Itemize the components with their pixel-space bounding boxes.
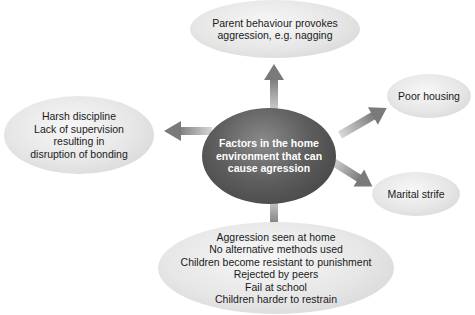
node-text-line: aggression, e.g. nagging <box>212 29 338 42</box>
node-marital-strife: Marital strife <box>372 172 460 216</box>
node-text-line: Children become resistant to punishment <box>181 256 372 269</box>
center-text-line: cause agression <box>216 162 322 175</box>
node-text-line: Marital strife <box>387 188 444 201</box>
node-text-line: disruption of bonding <box>30 148 128 161</box>
node-text-line: Rejected by peers <box>181 268 372 281</box>
center-text-line: Factors in the home <box>216 137 322 150</box>
center-text-line: environment that can <box>216 150 322 163</box>
node-text-line: Parent behaviour provokes <box>212 17 338 30</box>
diagram-canvas: Parent behaviour provokes aggression, e.… <box>0 0 475 315</box>
node-text-line: Fail at school <box>181 281 372 294</box>
node-text-line: Harsh discipline <box>30 110 128 123</box>
node-text-line: resulting in <box>30 135 128 148</box>
node-parent-behaviour: Parent behaviour provokes aggression, e.… <box>190 0 360 58</box>
node-text-line: Poor housing <box>398 90 460 103</box>
node-center-factors: Factors in the home environment that can… <box>202 108 336 204</box>
node-text-line: Children harder to restrain <box>181 293 372 306</box>
node-aggression-seen: Aggression seen at home No alternative m… <box>158 222 394 314</box>
arrow-left-icon <box>164 121 212 141</box>
arrow-up-icon <box>264 64 284 114</box>
node-poor-housing: Poor housing <box>387 74 471 118</box>
node-text-line: No alternative methods used <box>181 243 372 256</box>
node-text-line: Aggression seen at home <box>181 231 372 244</box>
arrow-up-right-icon <box>335 99 392 143</box>
node-harsh-discipline: Harsh discipline Lack of supervision res… <box>4 96 154 174</box>
node-text-line: Lack of supervision <box>30 123 128 136</box>
